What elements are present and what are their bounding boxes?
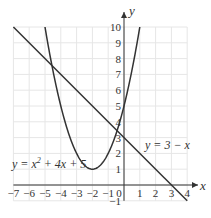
- x-tick-label: −2: [87, 187, 99, 199]
- y-tick-label: 1: [116, 163, 122, 175]
- x-tick-label: −5: [39, 187, 51, 199]
- x-tick-label: 3: [169, 187, 175, 199]
- y-tick-label: −1: [109, 195, 121, 207]
- x-tick-label: −6: [23, 187, 35, 199]
- x-tick-label: 1: [137, 187, 143, 199]
- x-tick-label: −3: [71, 187, 83, 199]
- x-tick-label: −4: [55, 187, 67, 199]
- y-axis-arrow-icon: [121, 12, 127, 18]
- y-tick-label: 2: [116, 147, 122, 159]
- y-tick-label: 5: [116, 100, 122, 112]
- chart-canvas: −7−6−5−4−3−2−101234−112345678910 x y y =…: [0, 0, 211, 218]
- x-tick-label: −7: [8, 187, 20, 199]
- parabola-equation-label: y = x2 + 4x + 5: [11, 156, 86, 171]
- x-tick-label: 2: [153, 187, 159, 199]
- x-tick-label: 4: [184, 187, 190, 199]
- line-equation-label: y = 3 − x: [144, 138, 191, 152]
- x-axis-arrow-icon: [192, 182, 198, 188]
- straight-line: [13, 27, 187, 201]
- x-axis-label: x: [199, 178, 206, 193]
- y-tick-label: 7: [116, 68, 122, 80]
- y-axis-label: y: [127, 3, 135, 18]
- y-tick-label: 10: [110, 21, 122, 33]
- y-tick-label: 9: [116, 37, 122, 49]
- y-tick-label: 8: [116, 53, 122, 65]
- y-tick-label: 6: [116, 84, 122, 96]
